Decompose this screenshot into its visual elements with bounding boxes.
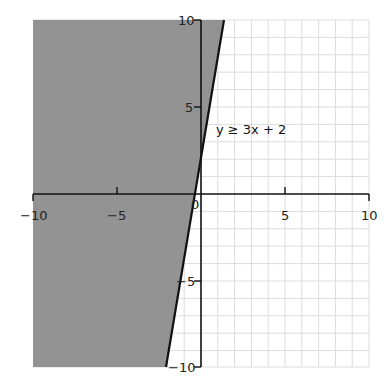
x-tick-label: −5 bbox=[107, 208, 126, 223]
x-tick-label: −10 bbox=[20, 208, 47, 223]
y-tick-label: 5 bbox=[185, 100, 193, 115]
y-tick-label: 10 bbox=[178, 13, 195, 28]
inequality-label: y ≥ 3x + 2 bbox=[216, 122, 286, 137]
x-tick-label: 5 bbox=[281, 208, 289, 223]
x-tick-label: 0 bbox=[191, 197, 199, 212]
y-tick-label: −5 bbox=[176, 274, 195, 289]
inequality-graph: −10 −5 0 5 10 10 5 −5 −10 y ≥ 3x + 2 bbox=[0, 0, 391, 391]
x-tick-label: 10 bbox=[361, 208, 378, 223]
y-tick-label: −10 bbox=[168, 360, 195, 375]
